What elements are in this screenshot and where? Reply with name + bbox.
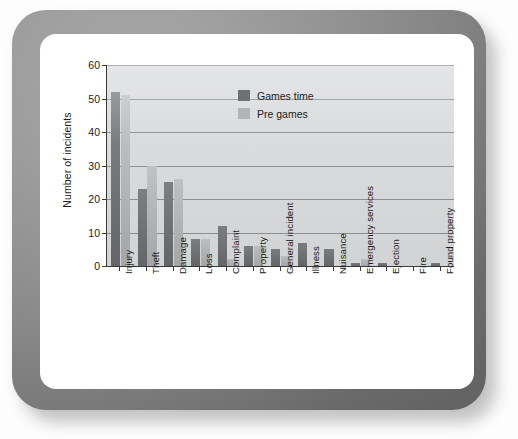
y-axis-tick-label: 10 [74,227,100,239]
y-axis-tick-label: 0 [74,260,100,272]
x-axis-tick-label: Fire [417,257,428,274]
x-axis-tick-mark [146,267,147,271]
gridline [107,233,454,234]
bar [271,249,280,266]
y-axis-title: Number of incidents [61,75,73,245]
y-axis-tick-label: 50 [74,93,100,105]
x-axis-tick-label: Theft [150,252,161,274]
legend-swatch-icon-pre-games [238,108,250,119]
x-axis-tick-label: General incident [284,203,295,274]
x-axis-tick-mark [306,267,307,271]
screenshot-page: Number of incidents 0102030405060 Injury… [0,0,518,439]
x-axis-tick-mark [440,267,441,271]
chart-legend: Games time Pre games [238,88,314,124]
bar [111,92,120,266]
x-axis-tick-label: Complaint [230,230,241,274]
gridline [107,65,454,66]
legend-label-pre-games: Pre games [257,108,308,120]
x-axis-tick-mark [413,267,414,271]
x-axis-tick-mark [119,267,120,271]
gridline [107,199,454,200]
legend-item-pre-games: Pre games [238,106,314,121]
x-axis-tick-mark [360,267,361,271]
bar [164,182,173,266]
bar [324,249,333,266]
y-axis-tick-label: 30 [74,160,100,172]
x-axis-tick-label: Emergency services [364,186,375,274]
figure-card: Number of incidents 0102030405060 Injury… [40,34,474,389]
legend-label-games-time: Games time [257,90,314,102]
x-axis-tick-label: Loss [203,253,214,274]
x-axis-tick-label: Nuisance [337,233,348,274]
bar [121,95,130,266]
x-axis-tick-mark [226,267,227,271]
y-axis-tick-label: 40 [74,126,100,138]
y-axis-tick-label: 20 [74,193,100,205]
bar [191,239,200,266]
x-axis-tick-mark [253,267,254,271]
x-axis-tick-label: Injury [123,250,134,274]
gridline [107,166,454,167]
bar [138,189,147,266]
bar [218,226,227,266]
gridline [107,132,454,133]
x-axis-tick-label: Damage [177,237,188,274]
x-axis-tick-label: Ejection [390,239,401,274]
x-axis-tick-mark [173,267,174,271]
x-axis-tick-mark [199,267,200,271]
bar [431,263,440,266]
x-axis-tick-mark [280,267,281,271]
bar [378,263,387,266]
bar [298,243,307,266]
x-axis-tick-label: Illness [310,246,321,274]
x-axis-tick-label: Property [257,237,268,274]
y-axis-tick-label: 60 [74,59,100,71]
bar-chart-figure: Number of incidents 0102030405060 Injury… [40,34,474,389]
legend-item-games-time: Games time [238,88,314,103]
bar [351,263,360,266]
x-axis-tick-label: Found property [444,208,455,274]
x-axis-tick-mark [386,267,387,271]
legend-swatch-icon-games-time [238,90,250,101]
x-axis-tick-mark [333,267,334,271]
bar [244,246,253,266]
